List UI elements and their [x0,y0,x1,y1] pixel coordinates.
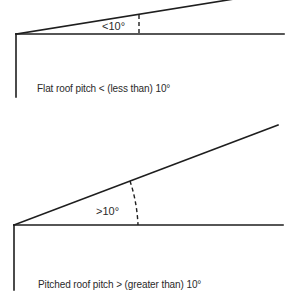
roof-pitch-diagram [0,0,298,303]
pitched-roof-slope-line [14,125,278,225]
pitched-roof-angle-label: >10° [96,206,119,217]
flat-roof-angle-label: <10° [102,21,125,32]
pitched-roof-angle-arc [130,181,138,225]
flat-roof-caption: Flat roof pitch < (less than) 10° [37,84,170,94]
pitched-roof-figure [14,125,283,290]
pitched-roof-caption: Pitched roof pitch > (greater than) 10° [38,280,201,290]
